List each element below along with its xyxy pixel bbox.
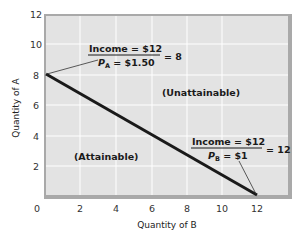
y-tick-8: 8 [33, 70, 39, 81]
x-tick-4: 4 [113, 203, 119, 214]
y-tick-6: 6 [33, 100, 39, 111]
x-tick-8: 8 [184, 203, 190, 214]
y-axis-ticks: 12 10 8 6 4 2 [30, 9, 42, 172]
x-tick-0: 0 [34, 203, 40, 214]
annotation-a-result: = 8 [164, 51, 182, 62]
y-axis-label: Quantity of A [11, 77, 21, 137]
region-unattainable: (Unattainable) [162, 87, 240, 98]
y-tick-12: 12 [30, 9, 42, 20]
region-attainable: (Attainable) [74, 151, 138, 162]
annotation-b-numerator: Income = $12 [192, 136, 265, 147]
y-tick-4: 4 [33, 131, 39, 142]
annotation-b-result: = 12 [266, 144, 291, 155]
y-tick-2: 2 [33, 161, 39, 172]
x-tick-2: 2 [77, 203, 83, 214]
x-tick-12: 12 [251, 203, 263, 214]
x-axis-ticks: 0 2 4 6 8 10 12 [34, 203, 263, 214]
x-axis-label: Quantity of B [137, 220, 196, 230]
y-tick-10: 10 [30, 39, 42, 50]
x-tick-6: 6 [149, 203, 155, 214]
budget-line-chart: Income = $12 PA = $1.50 = 8 Income = $12… [0, 0, 303, 235]
annotation-a-numerator: Income = $12 [89, 43, 162, 54]
x-tick-10: 10 [216, 203, 228, 214]
